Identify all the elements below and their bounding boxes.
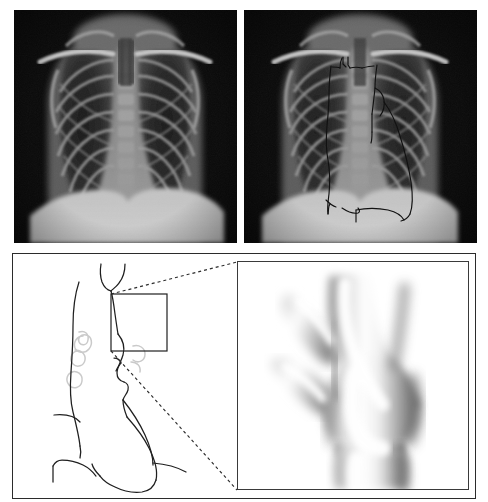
roi-box — [111, 294, 167, 351]
radiograph-panel-annotated — [244, 10, 477, 243]
aortic-arch-3d-inset — [237, 261, 469, 490]
bottom-composite-panel — [12, 253, 476, 499]
aortic-arch-volume-render — [238, 262, 468, 489]
mediastinum-schematic — [13, 254, 237, 497]
faint-bronchial-outline — [67, 331, 145, 387]
schematic-drawing — [13, 254, 237, 497]
radiograph-panel-plain — [14, 10, 237, 243]
dashed-leader-line — [111, 262, 237, 490]
figure-root — [0, 0, 488, 502]
radiograph-image-annotated — [244, 10, 477, 243]
schematic-contours — [53, 264, 186, 492]
radiograph-image-plain — [14, 10, 237, 243]
